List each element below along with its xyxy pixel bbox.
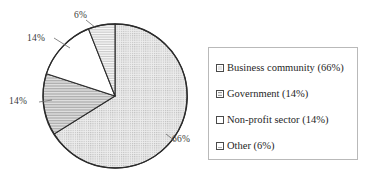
swatch-hatched-icon — [216, 90, 224, 98]
legend-item-business-community: Business community (66%) — [209, 55, 357, 81]
pie-label-government: 14% — [9, 96, 27, 106]
legend-item-non-profit-sector: Non-profit sector (14%) — [209, 107, 357, 133]
swatch-white-icon — [216, 116, 224, 124]
legend-label-non-profit-sector: Non-profit sector (14%) — [227, 115, 328, 126]
pie-label-other: 6% — [74, 10, 87, 20]
swatch-dotted-icon — [216, 64, 224, 72]
pie-label-non-profit-sector: 14% — [27, 33, 45, 43]
legend-label-business-community: Business community (66%) — [227, 63, 344, 74]
pie-label-business-community: 66% — [172, 134, 190, 144]
leader-line-other — [86, 20, 96, 28]
chart-legend: Business community (66%) Government (14%… — [208, 47, 358, 160]
legend-item-other: Other (6%) — [209, 133, 357, 159]
legend-label-government: Government (14%) — [227, 89, 308, 100]
swatch-hatched-light-icon — [216, 142, 224, 150]
pie-chart-figure: 6% 14% 14% 66% Business community (66%) … — [0, 0, 370, 190]
legend-item-government: Government (14%) — [209, 81, 357, 107]
legend-label-other: Other (6%) — [227, 141, 275, 152]
